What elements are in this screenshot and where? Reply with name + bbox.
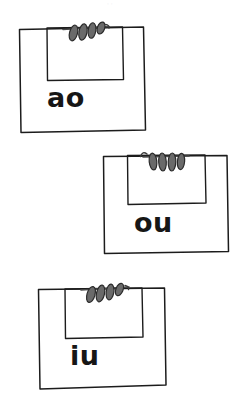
paper-clip-coil-icon xyxy=(63,21,109,42)
top-edge-artifact: · · xyxy=(107,1,113,7)
flashcard-iu-label: iu xyxy=(70,342,99,369)
flashcard-ou[interactable]: ou xyxy=(101,152,233,258)
card-outer-border xyxy=(104,156,229,254)
flashcard-ao-drawing xyxy=(17,24,149,136)
flashcard-ou-label: ou xyxy=(134,209,173,236)
card-outer-border xyxy=(39,288,167,389)
paper-clip-coil-icon xyxy=(81,282,129,303)
flashcard-iu[interactable]: iu xyxy=(36,285,171,397)
flashcard-ou-drawing xyxy=(101,152,233,258)
flashcard-iu-drawing xyxy=(36,285,171,397)
flashcard-canvas: · · ao xyxy=(0,0,243,401)
flashcard-ao[interactable]: ao xyxy=(17,24,149,136)
flashcard-ao-label: ao xyxy=(47,84,85,111)
